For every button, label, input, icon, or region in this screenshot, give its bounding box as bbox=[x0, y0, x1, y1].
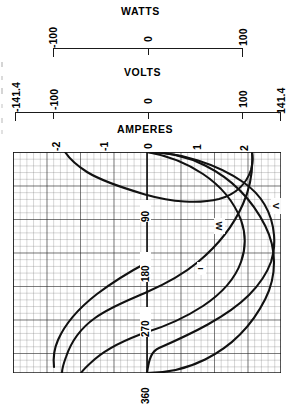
watts-tick-mid bbox=[148, 48, 149, 55]
amperes-scale-title: AMPERES bbox=[117, 123, 173, 135]
volts-tick-label-0: 0 bbox=[143, 88, 154, 104]
volts-tick-start bbox=[15, 112, 16, 121]
watts-tick-end bbox=[242, 48, 243, 57]
watts-tick-label-neg100: -100 bbox=[48, 20, 59, 48]
volts-tick-neg100 bbox=[53, 112, 54, 119]
volts-tick-label-neg100: -100 bbox=[49, 82, 60, 110]
volts-tick-end bbox=[280, 112, 281, 121]
amperes-tick-label-neg1: -1 bbox=[99, 138, 110, 151]
amperes-scale: AMPERES -2 -1 0 1 2 bbox=[0, 122, 293, 152]
angle-label-180: 180 bbox=[140, 252, 151, 282]
angle-label-90: 90 bbox=[140, 200, 151, 222]
volts-tick-label-1414: 141.4 bbox=[276, 76, 287, 114]
amperes-tick-label-0: 0 bbox=[143, 138, 154, 149]
watts-tick-start bbox=[53, 48, 54, 57]
angle-label-270: 270 bbox=[140, 307, 151, 337]
volts-scale-title: VOLTS bbox=[124, 66, 161, 78]
amperes-tick-label-2: 2 bbox=[239, 138, 250, 151]
amperes-tick-label-neg2: -2 bbox=[51, 138, 62, 151]
volts-tick-100 bbox=[242, 112, 243, 119]
volts-tick-label-100: 100 bbox=[238, 84, 249, 108]
angle-label-360: 360 bbox=[140, 374, 151, 404]
curve-label-I: I bbox=[196, 267, 205, 269]
volts-tick-zero bbox=[148, 112, 149, 119]
curve-label-V: V bbox=[271, 203, 282, 210]
watts-tick-label-0: 0 bbox=[143, 26, 154, 42]
watts-scale: WATTS -100 0 100 bbox=[0, 0, 293, 60]
watts-tick-label-100: 100 bbox=[238, 22, 249, 46]
volts-tick-label-neg1414: -141.4 bbox=[11, 74, 22, 112]
watts-scale-title: WATTS bbox=[121, 5, 160, 17]
amperes-tick-label-1: 1 bbox=[192, 139, 203, 150]
volts-scale: VOLTS -141.4 -100 0 100 141.4 bbox=[0, 60, 293, 122]
plot-grid-panel: V W I 90 180 270 bbox=[13, 152, 281, 373]
curve-label-W: W bbox=[214, 222, 225, 231]
